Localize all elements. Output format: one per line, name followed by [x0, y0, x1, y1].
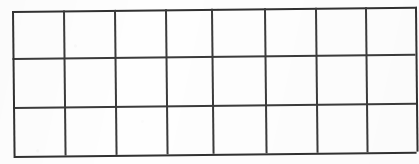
grid-cell-r2-c1[interactable] [13, 57, 65, 107]
grid-cell-r3-c2[interactable] [64, 106, 116, 156]
grid-cell-r2-c8[interactable] [365, 54, 416, 104]
grid-cell-r1-c5[interactable] [211, 8, 265, 56]
grid-cell-r1-c6[interactable] [264, 8, 316, 56]
grid-cell-r1-c4[interactable] [165, 9, 212, 56]
grid-cell-r1-c1[interactable] [12, 10, 64, 58]
grid-cell-r2-c5[interactable] [211, 55, 265, 105]
grid-cell-r2-c3[interactable] [115, 56, 167, 106]
grid-cell-r3-c6[interactable] [265, 104, 317, 154]
grid-sheet [0, 0, 419, 164]
grid-cell-r2-c6[interactable] [264, 55, 316, 105]
grid-cell-r1-c7[interactable] [315, 7, 366, 55]
grid-cell-r3-c7[interactable] [316, 103, 367, 153]
grid-cell-r1-c8[interactable] [365, 7, 416, 55]
grid-cell-r1-c3[interactable] [114, 9, 166, 57]
grid-cell-r3-c8[interactable] [366, 103, 417, 153]
grid-cell-r2-c2[interactable] [64, 57, 116, 107]
grid-cell-r2-c7[interactable] [315, 54, 366, 104]
grid-cell-r3-c3[interactable] [115, 105, 167, 155]
grid-cell-r2-c4[interactable] [165, 56, 212, 105]
grid-cell-r3-c1[interactable] [13, 106, 65, 156]
grid-border-right [415, 7, 419, 152]
grid-cell-r1-c2[interactable] [63, 10, 115, 58]
grid-cell-r3-c4[interactable] [166, 105, 213, 154]
grid-cell-r3-c5[interactable] [212, 104, 266, 154]
grid-table [12, 7, 417, 156]
